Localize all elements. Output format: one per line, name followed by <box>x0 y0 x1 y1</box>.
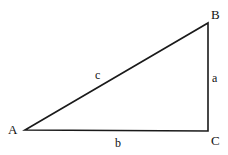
vertex-label-a: A <box>8 122 18 137</box>
triangle-svg: A B C c a b <box>0 0 228 155</box>
side-label-a: a <box>212 71 218 85</box>
vertex-label-c: C <box>211 133 220 148</box>
side-label-b: b <box>115 136 121 150</box>
triangle-shape <box>25 23 208 131</box>
vertex-label-b: B <box>211 7 220 22</box>
triangle-diagram: A B C c a b <box>0 0 228 155</box>
side-label-c: c <box>95 68 100 82</box>
